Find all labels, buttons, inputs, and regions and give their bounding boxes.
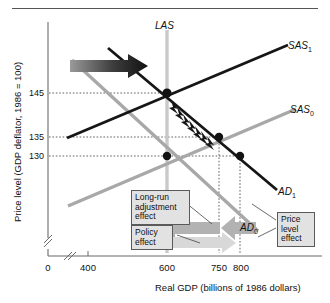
- callout-price-line3: effect: [281, 234, 311, 244]
- curve-label-las: LAS: [155, 20, 174, 31]
- curve-label-sas1-text: SAS: [288, 40, 308, 51]
- curve-label-ad0-sub: 0: [254, 228, 258, 235]
- curve-sas1: [67, 45, 288, 138]
- x-tick-400: 400: [75, 262, 101, 273]
- y-tick-135: 135: [22, 132, 44, 142]
- as-ad-figure: Price level (GDP deflator, 1986 = 100) 1…: [0, 0, 330, 303]
- curve-label-sas0-text: SAS: [290, 104, 310, 115]
- adjustment-chevrons: [169, 100, 214, 150]
- curve-label-sas1-sub: 1: [308, 46, 312, 53]
- x-axis-title: Real GDP (billions of 1986 dollars): [155, 282, 301, 293]
- curve-label-ad1: AD1: [278, 186, 296, 199]
- curve-label-ad1-sub: 1: [292, 192, 296, 199]
- x-tick-600: 600: [154, 262, 180, 273]
- curve-label-ad0: AD0: [240, 222, 258, 235]
- y-tick-145: 145: [22, 88, 44, 98]
- curve-label-sas1: SAS1: [288, 40, 312, 53]
- origin-label: 0: [41, 262, 55, 273]
- curve-label-sas0: SAS0: [290, 104, 314, 117]
- curve-label-ad1-text: AD: [278, 186, 292, 197]
- callout-price-level-effect: Price level effect: [277, 212, 315, 247]
- curve-label-ad0-text: AD: [240, 222, 254, 233]
- curve-label-sas0-sub: 0: [310, 110, 314, 117]
- ad-shift-arrow: [70, 54, 148, 78]
- callout-policy-line2: effect: [135, 238, 169, 248]
- x-tick-800: 800: [228, 262, 254, 273]
- callout-long-run-line3: effect: [135, 212, 186, 222]
- policy-effect-arrow: [170, 232, 236, 253]
- chart-canvas: [0, 0, 330, 303]
- callout-policy-effect: Policy effect: [131, 225, 173, 250]
- y-tick-130: 130: [22, 151, 44, 161]
- callout-long-run-adjustment-effect: Long-run adjustment effect: [131, 190, 190, 225]
